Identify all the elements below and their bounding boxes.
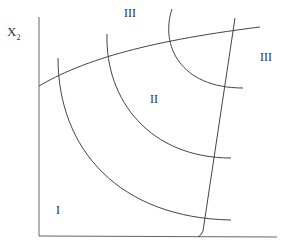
y-axis-label-sub: 2 (16, 33, 20, 42)
region-label-III-top: III (124, 7, 136, 19)
y-axis-label-main: X (7, 24, 16, 39)
outer-arc (58, 58, 231, 220)
region-label-III-right: III (260, 51, 272, 63)
diagram-canvas (0, 0, 285, 251)
boundary-curve (39, 27, 260, 86)
y-axis-label: X2 (7, 25, 20, 42)
region-label-II: II (150, 93, 158, 105)
vertical-boundary-line (198, 18, 235, 237)
region-label-I: I (56, 204, 60, 216)
middle-arc (107, 34, 231, 158)
inner-arc (169, 9, 243, 88)
x-axis (39, 236, 277, 237)
